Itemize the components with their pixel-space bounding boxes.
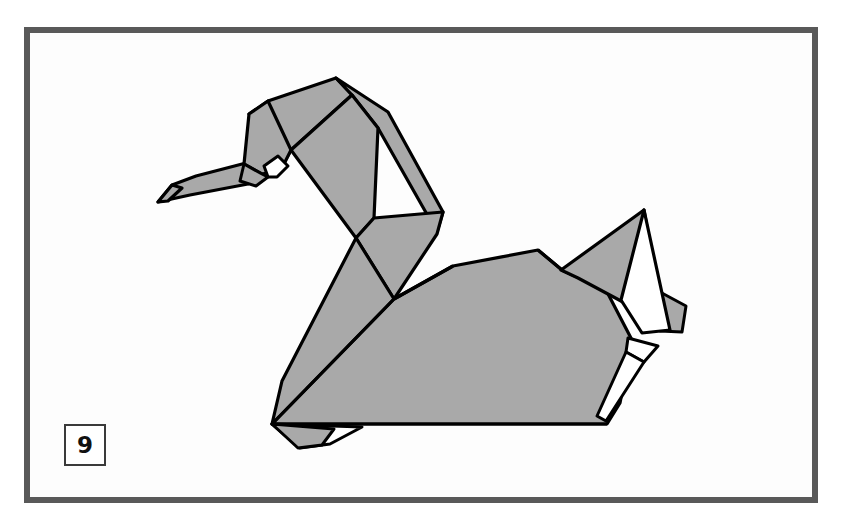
step-number-badge: 9 — [64, 424, 106, 466]
step-number-label: 9 — [77, 434, 93, 457]
diagram-frame — [24, 27, 818, 503]
origami-diagram-page: 9 — [0, 0, 845, 523]
